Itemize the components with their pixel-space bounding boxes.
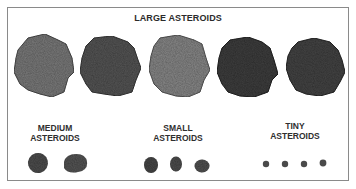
- medium-label-line1: MEDIUM: [22, 123, 88, 133]
- large-asteroid-2: [80, 36, 141, 96]
- small-asteroid-1: [144, 157, 158, 173]
- small-asteroids-label: SMALL ASTEROIDS: [145, 123, 211, 143]
- small-label-line1: SMALL: [145, 123, 211, 133]
- tiny-asteroid-1: [263, 161, 269, 167]
- asteroids-illustration: [0, 0, 356, 189]
- tiny-label-line1: TINY: [262, 121, 328, 131]
- small-label-line2: ASTEROIDS: [145, 133, 211, 143]
- medium-asteroid-2: [64, 154, 87, 173]
- medium-asteroids-label: MEDIUM ASTEROIDS: [22, 123, 88, 143]
- small-asteroid-2: [170, 157, 182, 172]
- tiny-label-line2: ASTEROIDS: [262, 131, 328, 141]
- large-asteroid-4: [217, 37, 278, 97]
- large-asteroid-1: [14, 34, 74, 97]
- small-asteroid-3: [195, 160, 210, 173]
- medium-asteroid-1: [26, 151, 50, 175]
- medium-label-line2: ASTEROIDS: [22, 133, 88, 143]
- tiny-asteroid-3: [301, 161, 307, 167]
- tiny-asteroid-4: [320, 160, 327, 167]
- large-asteroid-5: [286, 38, 345, 96]
- large-asteroid-3: [149, 35, 210, 97]
- tiny-asteroids-label: TINY ASTEROIDS: [262, 121, 328, 141]
- tiny-asteroid-2: [282, 161, 288, 167]
